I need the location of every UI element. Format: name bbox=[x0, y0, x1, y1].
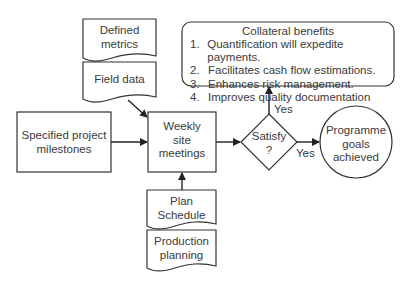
benefit-item: 4. Improves quality documentation bbox=[186, 91, 392, 104]
benefit-item: 3. Enhances risk management. bbox=[186, 78, 392, 91]
plan-schedule-label: Plan Schedule bbox=[147, 195, 216, 222]
field-data-label: Field data bbox=[83, 73, 156, 87]
programme-goals-label: Programme goals achieved bbox=[320, 124, 392, 165]
benefit-item: 1. Quantification will expedite payments… bbox=[186, 38, 392, 64]
satisfy-label: Satisfy ? bbox=[241, 130, 297, 157]
production-planning-label: Production planning bbox=[147, 235, 216, 262]
yes-label-right: Yes bbox=[296, 147, 320, 161]
collateral-benefits-list: 1. Quantification will expedite payments… bbox=[186, 38, 392, 104]
benefit-item: 2. Facilitates cash flow estimations. bbox=[186, 64, 392, 77]
defined-metrics-label: Defined metrics bbox=[83, 24, 156, 51]
weekly-meetings-label: Weekly site meetings bbox=[148, 120, 216, 161]
yes-label-up: Yes bbox=[274, 103, 298, 117]
specified-milestones-label: Specified project milestones bbox=[17, 129, 111, 156]
collateral-benefits-title: Collateral benefits bbox=[182, 25, 394, 39]
